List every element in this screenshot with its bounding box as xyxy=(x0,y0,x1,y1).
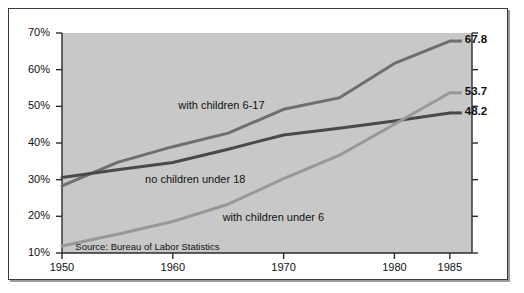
x-tick-label-1960: 1960 xyxy=(143,261,203,273)
y-tick-label-30: 30% xyxy=(12,173,50,185)
y-tick-label-20: 20% xyxy=(12,209,50,221)
x-tick-label-1970: 1970 xyxy=(254,261,314,273)
y-tick-label-10: 10% xyxy=(12,246,50,258)
x-tick-label-1980: 1980 xyxy=(364,261,424,273)
source-note: Source: Bureau of Labor Statistics xyxy=(75,241,219,252)
series-end-label-2: 53.7 xyxy=(465,85,487,97)
labels-layer: 10%20%30%40%50%60%70%1950196019701980198… xyxy=(0,0,524,293)
y-tick-label-40: 40% xyxy=(12,136,50,148)
y-tick-label-70: 70% xyxy=(12,26,50,38)
x-tick-label-1950: 1950 xyxy=(32,261,92,273)
series-end-label-0: 67.8 xyxy=(465,33,487,45)
chart-page: 10%20%30%40%50%60%70%1950196019701980198… xyxy=(0,0,524,293)
y-tick-label-60: 60% xyxy=(12,63,50,75)
x-tick-label-1985: 1985 xyxy=(420,261,480,273)
series-end-label-1: 48.2 xyxy=(465,105,487,117)
y-tick-label-50: 50% xyxy=(12,99,50,111)
series-annotation-2: with children under 6 xyxy=(223,211,325,223)
series-annotation-0: with children 6-17 xyxy=(178,99,264,111)
series-annotation-1: no children under 18 xyxy=(145,173,245,185)
